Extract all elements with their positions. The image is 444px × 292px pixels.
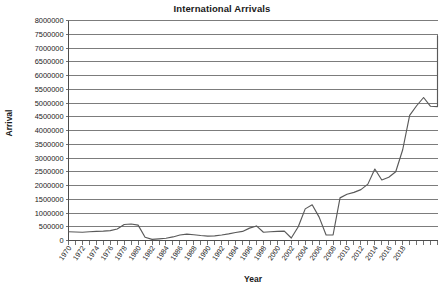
x-tick-label: 1992 bbox=[210, 244, 227, 262]
x-tick-label: 1986 bbox=[168, 244, 185, 262]
x-tick-label: 2002 bbox=[280, 244, 297, 262]
data-series-line bbox=[69, 36, 438, 240]
y-tick-label: 6000000 bbox=[35, 71, 64, 80]
x-tick-label: 1984 bbox=[154, 244, 171, 262]
gridlines bbox=[66, 21, 438, 241]
x-tick-label: 1970 bbox=[57, 244, 74, 262]
x-tick-label: 1990 bbox=[196, 244, 213, 262]
x-tick-label: 1978 bbox=[112, 244, 129, 262]
y-tick-label: 6500000 bbox=[35, 57, 64, 66]
y-tick-label: 7500000 bbox=[35, 30, 64, 39]
x-tick-label: 2014 bbox=[363, 244, 380, 262]
y-tick-label: 2500000 bbox=[35, 167, 64, 176]
x-tick-label: 1998 bbox=[252, 244, 269, 262]
x-tick-label: 1988 bbox=[182, 244, 199, 262]
y-tick-label: 8000000 bbox=[35, 16, 64, 25]
y-axis-tick-labels: 8000000750000070000006500000600000055000… bbox=[35, 16, 64, 245]
y-tick-label: 0 bbox=[59, 236, 63, 245]
x-tick-label: 1976 bbox=[99, 244, 116, 262]
y-tick-label: 5000000 bbox=[35, 99, 64, 108]
x-tick-label: 2016 bbox=[377, 244, 394, 262]
y-tick-label: 4500000 bbox=[35, 112, 64, 121]
x-tick-label: 1994 bbox=[224, 244, 241, 262]
y-tick-label: 3000000 bbox=[35, 154, 64, 163]
y-tick-label: 2000000 bbox=[35, 181, 64, 190]
x-tick-label: 2012 bbox=[349, 244, 366, 262]
x-tick-label: 1980 bbox=[126, 244, 143, 262]
x-tick-label: 2006 bbox=[307, 244, 324, 262]
x-tick-label: 1972 bbox=[71, 244, 88, 262]
x-tick-label: 1996 bbox=[238, 244, 255, 262]
x-tick-label: 1982 bbox=[140, 244, 157, 262]
y-tick-label: 1500000 bbox=[35, 195, 64, 204]
plot-area: 8000000750000070000006500000600000055000… bbox=[0, 0, 444, 292]
chart-container: International Arrivals Arrival Year 8000… bbox=[0, 0, 444, 292]
y-tick-label: 5500000 bbox=[35, 85, 64, 94]
y-tick-label: 7000000 bbox=[35, 44, 64, 53]
x-tick-label: 2008 bbox=[321, 244, 338, 262]
x-axis-tickmarks bbox=[69, 241, 438, 245]
y-tick-label: 3500000 bbox=[35, 140, 64, 149]
x-tick-label: 2004 bbox=[294, 244, 311, 262]
x-axis-tick-labels: 1970197219741976197819801982198419861988… bbox=[57, 244, 408, 262]
y-tick-label: 4000000 bbox=[35, 126, 64, 135]
x-tick-label: 2010 bbox=[335, 244, 352, 262]
x-tick-label: 2018 bbox=[391, 244, 408, 262]
x-tick-label: 2000 bbox=[266, 244, 283, 262]
x-tick-label: 1974 bbox=[85, 244, 102, 262]
y-tick-label: 500000 bbox=[39, 222, 64, 231]
y-tick-label: 1000000 bbox=[35, 209, 64, 218]
